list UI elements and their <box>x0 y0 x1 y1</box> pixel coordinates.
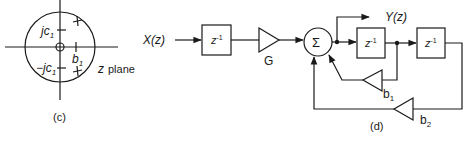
delay-block-input-label: z-1 <box>210 34 223 46</box>
wire-b1-to-summer <box>329 55 363 80</box>
wire-delay2-to-b2 <box>413 43 462 109</box>
pole-mark-upper <box>73 16 82 26</box>
output-label: Y(z) <box>385 10 407 24</box>
input-label: X(z) <box>142 33 165 47</box>
plane-label-var: z <box>97 62 104 76</box>
caption-d: (d) <box>370 120 383 132</box>
diagram-canvas: jc1 −jc1 b1 z plane (c) X(z) z-1 G Σ Y(z… <box>0 0 465 141</box>
zero-label-upper: jc1 <box>39 24 54 40</box>
gain-b1-triangle <box>363 70 382 91</box>
gain-b2-triangle <box>394 98 413 120</box>
caption-c: (c) <box>53 111 66 123</box>
plane-label-word: plane <box>108 63 135 75</box>
gain-g-label: G <box>264 54 273 68</box>
gain-b2-label: b2 <box>420 113 432 129</box>
delay-block-1-label: z-1 <box>364 37 377 49</box>
gain-g-triangle <box>259 28 279 52</box>
block-diagram-panel: X(z) z-1 G Σ Y(z) z-1 z-1 b1 <box>142 10 462 132</box>
z-plane-panel: jc1 −jc1 b1 z plane (c) <box>5 0 135 123</box>
wire-tap-to-b1 <box>382 43 397 80</box>
gain-b1-label: b1 <box>383 87 395 103</box>
summer-symbol: Σ <box>312 35 320 50</box>
delay-block-2-label: z-1 <box>424 37 437 49</box>
real-pole-label: b1 <box>72 52 83 68</box>
zero-label-lower: −jc1 <box>36 61 56 77</box>
